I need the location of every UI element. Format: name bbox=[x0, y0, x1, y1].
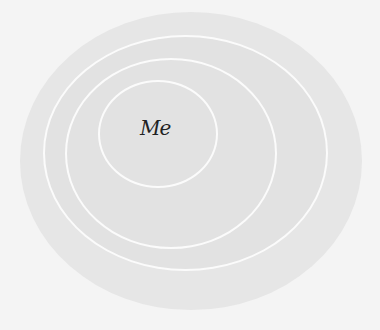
center-label: Me bbox=[140, 116, 170, 140]
